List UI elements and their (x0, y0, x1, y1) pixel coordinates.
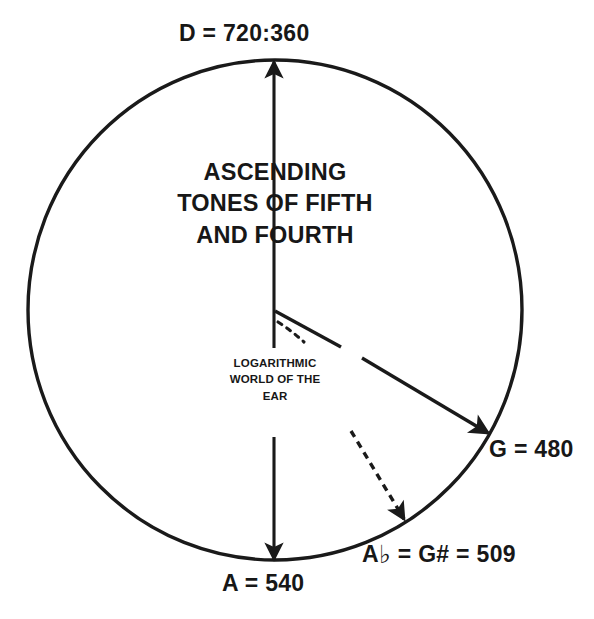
heading-line-1: ASCENDING (129, 157, 421, 188)
label-note-d: D = 720:360 (179, 20, 310, 47)
caption-logarithmic-world: LOGARITHMIC WORLD OF THE EAR (204, 355, 346, 404)
heading-line-2: TONES OF FIFTH (129, 188, 421, 219)
circle-diagram-graphics (0, 0, 594, 619)
label-note-a: A = 540 (222, 570, 304, 597)
caption-line-2: WORLD OF THE (204, 371, 346, 387)
heading-line-3: AND FOURTH (129, 220, 421, 251)
heading-ascending-tones: ASCENDING TONES OF FIFTH AND FOURTH (129, 157, 421, 251)
caption-line-3: EAR (204, 388, 346, 404)
flat-symbol-icon: ♭ (379, 540, 391, 569)
label-a-flat-rest: = G# = 509 (398, 541, 516, 567)
arrow-to-g-segment-2 (362, 358, 488, 433)
arrow-to-g-segment-1 (275, 311, 341, 347)
caption-line-1: LOGARITHMIC (204, 355, 346, 371)
label-note-g: G = 480 (489, 436, 574, 463)
label-a-flat-letter: A (362, 541, 379, 567)
arrow-to-a-flat-dashed (351, 431, 404, 519)
diagram-canvas: D = 720:360 ASCENDING TONES OF FIFTH AND… (0, 0, 594, 619)
label-note-a-flat-g-sharp: A♭ = G# = 509 (362, 541, 516, 568)
